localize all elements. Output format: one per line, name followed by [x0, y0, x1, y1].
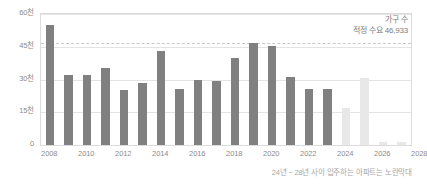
bar — [305, 89, 314, 145]
y-axis-tick-label: 30천 — [19, 75, 34, 83]
x-axis-tick-label: 2016 — [189, 149, 205, 158]
bar — [120, 90, 129, 145]
y-axis-tick-label: 0 — [30, 140, 34, 148]
x-axis-tick-label: 2008 — [41, 149, 57, 158]
y-axis-tick-label: 60천 — [19, 9, 34, 17]
bar — [360, 78, 369, 145]
bar — [194, 80, 203, 146]
bar — [83, 75, 92, 145]
x-axis-tick-label: 2024 — [337, 149, 353, 158]
annotation-reference-value: 적정 수요 46,933 — [353, 25, 408, 36]
x-axis-tick-label: 2012 — [115, 149, 131, 158]
bar — [249, 43, 258, 145]
annotation-title: 가구 수 — [353, 14, 408, 25]
chart-annotation: 가구 수 적정 수요 46,933 — [353, 14, 408, 36]
bar — [286, 77, 295, 145]
bar — [64, 75, 73, 145]
y-axis: 015천30천45천60천 — [0, 0, 38, 185]
bar — [175, 89, 184, 145]
x-axis-tick-label: 2010 — [78, 149, 94, 158]
bar — [101, 68, 110, 146]
bar — [323, 89, 332, 145]
x-axis-tick-label: 2020 — [263, 149, 279, 158]
x-axis-tick-label: 2022 — [300, 149, 316, 158]
bar — [379, 142, 388, 145]
x-axis: 2008201020122014201620182020202220242026… — [40, 149, 412, 163]
chart-caption: 24년 ~ 28년 사이 입주하는 아파트는 노란막대 — [272, 168, 412, 178]
bar — [268, 46, 277, 145]
bar — [157, 51, 166, 145]
x-axis-tick-label: 2014 — [152, 149, 168, 158]
bar — [231, 58, 240, 145]
x-axis-tick-label: 2018 — [226, 149, 242, 158]
x-axis-tick-label: 2028 — [411, 149, 427, 158]
y-axis-tick-label: 45천 — [19, 42, 34, 50]
y-axis-tick-label: 15천 — [19, 107, 34, 115]
bar — [397, 142, 406, 145]
x-axis-tick-label: 2026 — [374, 149, 390, 158]
bar — [46, 25, 55, 145]
bar — [138, 83, 147, 145]
bar — [342, 108, 351, 145]
bar — [212, 81, 221, 145]
